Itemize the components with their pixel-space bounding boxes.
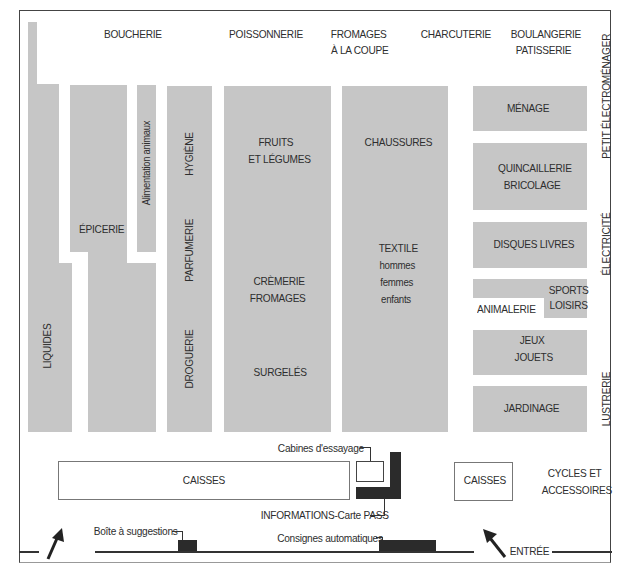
liquides-shelf-mid bbox=[28, 84, 59, 264]
label-chaussures: CHAUSSURES bbox=[365, 135, 433, 149]
label-electricite: ÉLECTRICITÉ bbox=[600, 209, 612, 279]
label-cabines: Cabines d'essayage bbox=[278, 441, 364, 455]
label-boite-suggestions: Boîte à suggestions bbox=[94, 524, 178, 538]
epicerie-shelf-bottom bbox=[88, 263, 156, 432]
label-menage: MÉNAGE bbox=[507, 101, 549, 115]
exit-arrow-icon bbox=[38, 526, 68, 562]
entrance-arrow-icon bbox=[480, 526, 512, 562]
informations-leader bbox=[370, 499, 385, 516]
quincaillerie-shelf bbox=[473, 143, 587, 210]
label-boulangerie-2: PATISSERIE bbox=[516, 43, 571, 57]
label-quincaillerie-1: QUINCAILLERIE bbox=[498, 161, 572, 175]
label-droguerie: DROGUERIE bbox=[183, 328, 195, 390]
label-lustrerie: LUSTRERIE bbox=[600, 364, 612, 434]
cabines-box bbox=[356, 461, 384, 482]
label-textile-3: femmes bbox=[380, 275, 413, 289]
label-fromages-coupe-1: FROMAGES bbox=[331, 27, 387, 41]
label-consignes: Consignes automatiques bbox=[277, 531, 383, 545]
label-epicerie: ÉPICERIE bbox=[79, 222, 124, 236]
label-cycles-1: CYCLES ET bbox=[548, 466, 602, 480]
label-boulangerie-1: BOULANGERIE bbox=[511, 27, 581, 41]
label-textile-1: TEXTILE bbox=[379, 241, 418, 255]
label-sports-1: SPORTS bbox=[549, 283, 589, 297]
label-sports-2: LOISIRS bbox=[550, 298, 588, 312]
label-fruits-2: ET LÉGUMES bbox=[248, 152, 310, 166]
label-hygiene: HYGIÈNE bbox=[183, 128, 195, 181]
label-alimentation-animaux: Alimentation animaux bbox=[140, 121, 152, 206]
label-petit-electromenager: PETIT ÉLECTROMÉNAGER bbox=[600, 53, 612, 159]
label-boucherie: BOUCHERIE bbox=[104, 27, 162, 41]
wall-bottom-right bbox=[552, 551, 612, 553]
label-disques-livres: DISQUES LIVRES bbox=[494, 237, 575, 251]
label-surgeles: SURGELÉS bbox=[254, 365, 307, 379]
informations-desk-horizontal bbox=[356, 487, 401, 499]
label-caisses-main: CAISSES bbox=[183, 473, 225, 487]
label-charcuterie: CHARCUTERIE bbox=[421, 27, 491, 41]
label-cremerie-2: FROMAGES bbox=[250, 291, 306, 305]
label-jeux-1: JEUX bbox=[520, 333, 545, 347]
label-jeux-2: JOUETS bbox=[515, 350, 553, 364]
label-fruits-1: FRUITS bbox=[258, 135, 293, 149]
label-cremerie-1: CRÈMERIE bbox=[253, 274, 304, 288]
label-cycles-2: ACCESSOIRES bbox=[542, 483, 612, 497]
label-caisses-small: CAISSES bbox=[464, 473, 506, 487]
label-animalerie: ANIMALERIE bbox=[477, 302, 536, 316]
liquides-shelf-top bbox=[28, 22, 37, 86]
label-parfumerie: PARFUMERIE bbox=[183, 220, 195, 282]
epicerie-shelf-join bbox=[88, 250, 127, 264]
label-textile-4: enfants bbox=[381, 292, 411, 306]
wall-bottom-left bbox=[19, 551, 39, 553]
label-jardinage: JARDINAGE bbox=[504, 401, 560, 415]
wall-bottom-middle bbox=[95, 551, 474, 553]
label-textile-2: hommes bbox=[379, 258, 415, 272]
label-entree: ENTRÉE bbox=[508, 544, 551, 558]
label-fromages-coupe-2: À LA COUPE bbox=[331, 43, 389, 57]
label-poissonnerie: POISSONNERIE bbox=[229, 27, 303, 41]
label-quincaillerie-2: BRICOLAGE bbox=[504, 178, 561, 192]
label-liquides: LIQUIDES bbox=[41, 320, 53, 373]
